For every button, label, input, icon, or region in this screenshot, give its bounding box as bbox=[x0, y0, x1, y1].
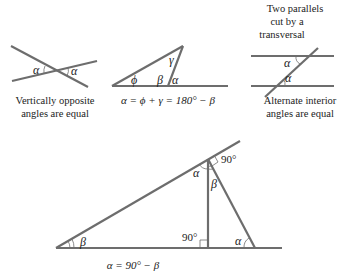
angle-gamma-label: γ bbox=[169, 53, 174, 67]
geometry-diagram: α α Vertically opposite angles are equal… bbox=[0, 0, 353, 275]
angle-beta-top-label: β bbox=[210, 177, 217, 191]
caption-line-1: Vertically opposite bbox=[15, 95, 94, 106]
slanted-line bbox=[208, 159, 255, 248]
angle-alpha-label: α bbox=[172, 73, 179, 87]
caption-line-2: angles are equal bbox=[21, 108, 89, 119]
figure-vertically-opposite: α α Vertically opposite angles are equal bbox=[11, 46, 97, 119]
line-b bbox=[12, 61, 97, 81]
angle-beta-left-label: β bbox=[79, 235, 86, 249]
title-line-1: Two parallels bbox=[267, 3, 324, 14]
angle-beta-label: β bbox=[156, 73, 163, 87]
angle-arc-alpha-right bbox=[244, 238, 249, 248]
angle-label-left: α bbox=[33, 63, 40, 77]
equation-label: α = 90° − β bbox=[107, 259, 160, 271]
caption-line-1: Alternate interior bbox=[264, 95, 337, 106]
angle-label-top: α bbox=[284, 56, 291, 70]
equation-label: α = ϕ + γ = 180° − β bbox=[121, 94, 215, 106]
angle-arc-left bbox=[44, 66, 45, 73]
angle-phi-label: ϕ bbox=[131, 73, 137, 87]
right-angle-label-top: 90° bbox=[221, 153, 236, 165]
angle-arc-beta-left-2 bbox=[72, 239, 74, 248]
angle-alpha-right-label: α bbox=[235, 234, 242, 248]
figure-right-triangle: β α β 90° 90° α α = 90° − β bbox=[56, 141, 282, 271]
angle-alpha-top-label: α bbox=[193, 166, 200, 180]
angle-label-right: α bbox=[71, 64, 78, 78]
right-angle-label-bottom: 90° bbox=[182, 231, 197, 243]
title-line-3: transversal bbox=[259, 29, 305, 40]
figure-exterior-angle: ϕ γ β α α = ϕ + γ = 180° − β bbox=[112, 46, 228, 106]
angle-arc-top bbox=[296, 56, 300, 64]
angle-label-bottom: α bbox=[285, 71, 292, 85]
hypotenuse-line bbox=[56, 141, 240, 248]
caption-line-2: angles are equal bbox=[266, 108, 334, 119]
figure-alternate-interior: Two parallels cut by a transversal α α A… bbox=[251, 3, 337, 119]
title-line-2: cut by a bbox=[270, 16, 304, 27]
right-angle-marker-bottom bbox=[200, 240, 208, 248]
